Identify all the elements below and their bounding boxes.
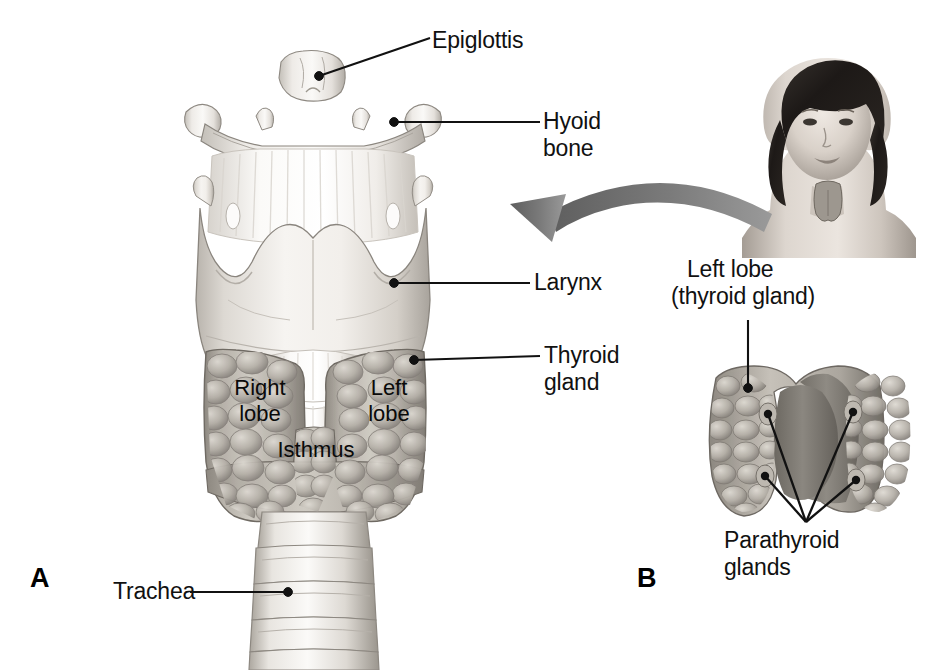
label-isthmus: Isthmus — [264, 437, 368, 462]
woman-inset-illustration — [742, 58, 916, 258]
anatomy-figure: Epiglottis Hyoid bone Larynx Thyroid gla… — [0, 0, 947, 670]
label-hyoid-bone-line2: bone — [543, 135, 593, 162]
thyrohyoid-membrane — [208, 149, 418, 244]
label-hyoid-bone-line1: Hyoid — [543, 108, 601, 135]
label-left-lobe-line2: lobe — [358, 401, 420, 426]
label-right-lobe-line1: Right — [222, 375, 298, 400]
panel-letter-b: B — [637, 563, 657, 594]
label-right-lobe-line2: lobe — [222, 401, 298, 426]
label-b-left-lobe-line2: (thyroid gland) — [671, 283, 815, 310]
label-trachea: Trachea — [113, 578, 195, 605]
panel-letter-a: A — [30, 563, 50, 594]
label-thyroid-gland-line2: gland — [544, 369, 599, 396]
label-epiglottis: Epiglottis — [432, 27, 523, 54]
leader-thyroid-gland — [410, 356, 540, 365]
label-parathyroid-glands-line2: glands — [724, 554, 791, 581]
label-b-left-lobe-line1: Left lobe — [687, 256, 773, 283]
inset-thyroid-overlay — [814, 181, 842, 221]
inset-pointer-arrow — [510, 183, 772, 242]
label-parathyroid-glands-line1: Parathyroid — [724, 527, 839, 554]
label-left-lobe-line1: Left — [358, 375, 420, 400]
panel-a-artwork — [185, 51, 442, 670]
panel-b-artwork — [708, 366, 913, 521]
label-larynx: Larynx — [534, 269, 602, 296]
anatomy-illustration — [0, 0, 947, 670]
label-thyroid-gland-line1: Thyroid — [544, 342, 619, 369]
epiglottis-structure — [279, 51, 345, 102]
